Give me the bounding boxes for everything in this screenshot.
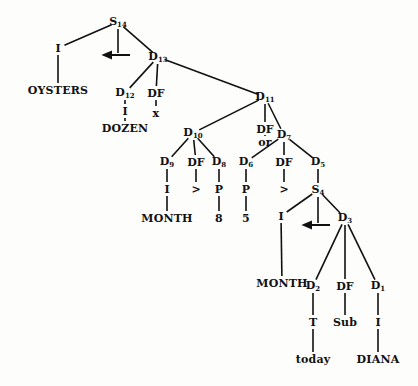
node-subscript: 7	[286, 133, 291, 142]
tree-edge	[287, 194, 313, 212]
node-label: I	[55, 42, 60, 55]
node-label: >	[191, 183, 200, 196]
node-d8: D8	[212, 156, 226, 168]
node-label: S	[312, 183, 320, 196]
node-t: T	[309, 317, 317, 328]
node-subscript: 13	[158, 55, 168, 64]
node-subscript: 12	[125, 91, 135, 100]
node-p_a: P	[215, 184, 223, 195]
node-p_b: P	[242, 184, 250, 195]
node-subscript: 11	[265, 95, 275, 104]
tree-edge	[156, 64, 157, 86]
node-label: OYSTERS	[28, 84, 88, 97]
node-label: MONTH	[141, 212, 192, 225]
node-label: D	[306, 279, 316, 292]
node-s14: S14	[109, 16, 127, 28]
node-label: DF	[147, 87, 164, 100]
node-d11: D11	[255, 91, 274, 103]
node-label: T	[309, 316, 317, 329]
node-label: I	[375, 316, 380, 329]
node-df_a: DF	[147, 88, 164, 99]
node-df_b: DF	[256, 124, 273, 135]
leaf-today: today	[296, 354, 331, 365]
node-i_b: I	[122, 106, 127, 117]
tree-edge	[316, 224, 342, 279]
leaf-sub: Sub	[333, 317, 357, 328]
node-d12: D12	[115, 87, 134, 99]
node-subscript: 10	[193, 131, 203, 140]
node-df_e: DF	[336, 281, 353, 292]
node-d1: D1	[371, 280, 385, 292]
node-label: S	[109, 15, 117, 28]
leaf-month_b: MONTH	[256, 278, 307, 289]
leaf-five: 5	[242, 213, 250, 224]
node-subscript: 14	[117, 20, 127, 29]
node-d6: D6	[239, 156, 253, 168]
node-label: I	[164, 183, 169, 196]
node-subscript: 8	[221, 160, 226, 169]
node-d10: D10	[183, 127, 202, 139]
node-label: DIANA	[357, 353, 400, 366]
node-label: DF	[275, 156, 292, 169]
node-subscript: 1	[380, 284, 385, 293]
node-subscript: 9	[169, 160, 174, 169]
node-label: D	[311, 155, 321, 168]
node-label: D	[160, 155, 170, 168]
node-subscript: 5	[320, 160, 325, 169]
node-label: D	[212, 155, 222, 168]
node-i_e: I	[375, 317, 380, 328]
tree-edge	[194, 140, 196, 155]
node-label: D	[277, 128, 287, 141]
node-label: Sub	[333, 316, 357, 329]
node-i_d: I	[278, 211, 283, 222]
node-label: DF	[187, 156, 204, 169]
node-label: P	[215, 183, 223, 196]
leaf-diana: DIANA	[357, 354, 400, 365]
leaf-x: x	[153, 108, 160, 119]
leaf-or: or	[258, 137, 272, 148]
node-d13: D13	[148, 51, 167, 63]
node-d7: D7	[277, 129, 291, 141]
node-gt_a: >	[191, 184, 200, 195]
node-label: D	[255, 90, 265, 103]
node-label: 8	[215, 212, 223, 225]
node-label: >	[279, 183, 288, 196]
node-label: D	[371, 279, 381, 292]
node-label: today	[296, 353, 331, 366]
left-arrow-icon	[304, 222, 330, 228]
tree-edge	[348, 224, 375, 279]
node-label: D	[239, 155, 249, 168]
node-d2: D2	[306, 280, 320, 292]
tree-edge	[64, 25, 111, 45]
node-label: I	[122, 105, 127, 118]
tree-edge	[123, 27, 152, 53]
node-subscript: 6	[248, 160, 253, 169]
node-df_c: DF	[187, 157, 204, 168]
node-d9: D9	[160, 156, 174, 168]
node-i_c: I	[164, 184, 169, 195]
tree-edge	[165, 59, 259, 94]
tree-edge	[172, 138, 189, 157]
tree-edge	[281, 223, 282, 276]
node-label: D	[183, 126, 193, 139]
leaf-eight: 8	[215, 213, 223, 224]
node-label: x	[153, 107, 160, 120]
left-arrow-icon	[104, 52, 130, 58]
node-label: or	[258, 136, 272, 149]
node-gt_b: >	[279, 184, 288, 195]
leaf-month_a: MONTH	[141, 213, 192, 224]
tree-edge	[199, 100, 258, 130]
node-subscript: 2	[315, 284, 320, 293]
node-subscript: 3	[347, 216, 352, 225]
node-label: D	[115, 86, 125, 99]
node-label: MONTH	[256, 277, 307, 290]
node-label: DF	[336, 280, 353, 293]
node-label: DF	[256, 123, 273, 136]
node-d5: D5	[311, 156, 325, 168]
node-label: DOZEN	[102, 122, 149, 135]
node-i_a: I	[55, 43, 60, 54]
node-label: D	[148, 50, 158, 63]
node-s4: S4	[312, 184, 325, 196]
leaf-dozen: DOZEN	[102, 123, 149, 134]
node-label: 5	[242, 212, 250, 225]
